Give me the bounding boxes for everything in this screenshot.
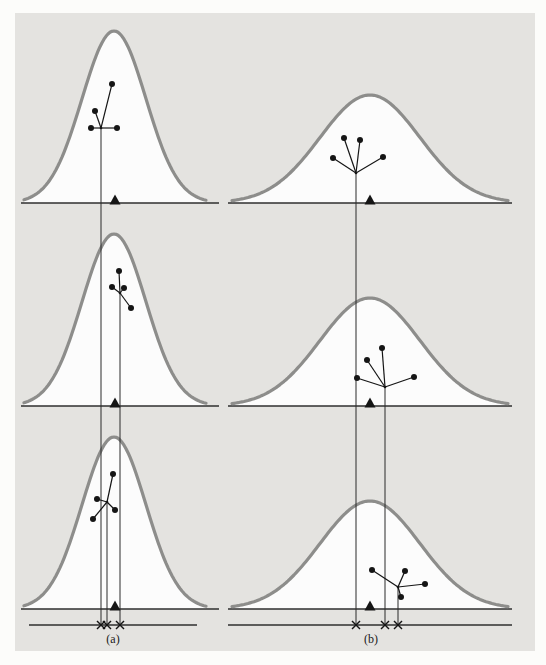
sample-point [357, 137, 363, 143]
sample-point [128, 305, 134, 311]
sample-point [341, 135, 347, 141]
column-a-label: (a) [106, 632, 119, 646]
sample-point [114, 125, 120, 131]
sampling-distribution-figure: (a) (b) [0, 0, 546, 665]
star-center-vertex [397, 586, 400, 589]
scanned-figure-page: (a) (b) [0, 0, 546, 665]
sample-point [121, 285, 127, 291]
sample-point [422, 581, 428, 587]
sample-point [109, 284, 115, 290]
sample-point [109, 81, 115, 87]
sample-point [116, 268, 122, 274]
sample-point [94, 496, 100, 502]
sample-point [354, 375, 360, 381]
sample-point [402, 568, 408, 574]
sample-point [379, 345, 385, 351]
star-center-vertex [119, 292, 122, 295]
sample-point [330, 155, 336, 161]
sample-point [110, 471, 116, 477]
sample-point [88, 125, 94, 131]
sample-point [92, 108, 98, 114]
star-center-vertex [355, 172, 358, 175]
star-center-vertex [384, 386, 387, 389]
sample-point [380, 154, 386, 160]
sample-point [90, 516, 96, 522]
star-center-vertex [100, 127, 103, 130]
sample-point [398, 594, 404, 600]
sample-point [364, 357, 370, 363]
sample-point [369, 567, 375, 573]
star-center-vertex [106, 501, 109, 504]
sample-point [112, 507, 118, 513]
sample-point [411, 374, 417, 380]
column-b-label: (b) [364, 632, 378, 646]
